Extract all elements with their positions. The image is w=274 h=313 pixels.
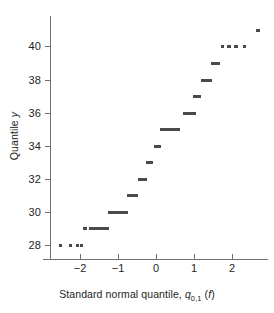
- data-point: [135, 194, 138, 197]
- data-point: [105, 227, 108, 230]
- y-axis-tick-40: [45, 46, 51, 47]
- y-axis-tick-label-text: 34: [19, 141, 41, 152]
- y-axis-spine: [50, 16, 51, 260]
- data-point: [80, 244, 83, 247]
- y-axis-tick-label: 40: [0, 41, 41, 52]
- y-axis-tick-32: [45, 179, 51, 180]
- y-axis-tick-label-text: 28: [19, 240, 41, 251]
- data-point: [256, 29, 259, 32]
- y-axis-tick-36: [45, 113, 51, 114]
- x-axis-tick-1: [194, 254, 195, 260]
- data-point: [144, 178, 147, 181]
- x-axis-tick--2: [80, 254, 81, 260]
- y-axis-tick-30: [45, 212, 51, 213]
- y-axis-tick-label: 30: [0, 207, 41, 218]
- data-point: [83, 227, 86, 230]
- y-axis-tick-label: 32: [0, 174, 41, 185]
- data-point: [157, 145, 160, 148]
- x-axis-tick-label: −2: [65, 262, 95, 274]
- y-axis-tick-label-text: 40: [19, 41, 41, 52]
- y-axis-tick-label-text: 30: [19, 207, 41, 218]
- y-axis-tick-label: 34: [0, 141, 41, 152]
- y-axis-tick-28: [45, 245, 51, 246]
- data-point: [217, 62, 220, 65]
- data-point: [150, 161, 153, 164]
- y-axis-title: Quantile y: [8, 71, 20, 201]
- y-axis-tick-label-text: 32: [19, 174, 41, 185]
- plot-area: 28303234363840 −2−1012 Standard normal q…: [0, 0, 274, 313]
- x-axis-tick-label: −1: [103, 262, 133, 274]
- data-point: [125, 211, 128, 214]
- y-axis-tick-label: 38: [0, 75, 41, 86]
- y-axis-tick-label: 28: [0, 240, 41, 251]
- data-point: [59, 244, 62, 247]
- data-point: [176, 128, 179, 131]
- x-axis-tick-label: 2: [217, 262, 247, 274]
- qq-plot-figure: 28303234363840 −2−1012 Standard normal q…: [0, 0, 274, 313]
- y-axis-tick-label-text: 36: [19, 108, 41, 119]
- y-axis-tick-label: 36: [0, 108, 41, 119]
- x-axis-title: Standard normal quantile, q0,1 (f): [0, 288, 274, 300]
- y-axis-tick-38: [45, 80, 51, 81]
- data-point: [198, 95, 201, 98]
- data-point: [69, 244, 72, 247]
- data-point: [234, 45, 237, 48]
- x-axis-tick-label: 0: [141, 262, 171, 274]
- data-point: [76, 244, 79, 247]
- x-axis-tick--1: [118, 254, 119, 260]
- x-axis-tick-label: 1: [179, 262, 209, 274]
- data-point: [243, 45, 246, 48]
- y-axis-tick-label-text: 38: [19, 75, 41, 86]
- data-point: [227, 45, 230, 48]
- x-axis-tick-2: [232, 254, 233, 260]
- y-axis-tick-34: [45, 146, 51, 147]
- data-point: [209, 79, 212, 82]
- data-point: [221, 45, 224, 48]
- data-point: [192, 112, 195, 115]
- x-axis-tick-0: [156, 254, 157, 260]
